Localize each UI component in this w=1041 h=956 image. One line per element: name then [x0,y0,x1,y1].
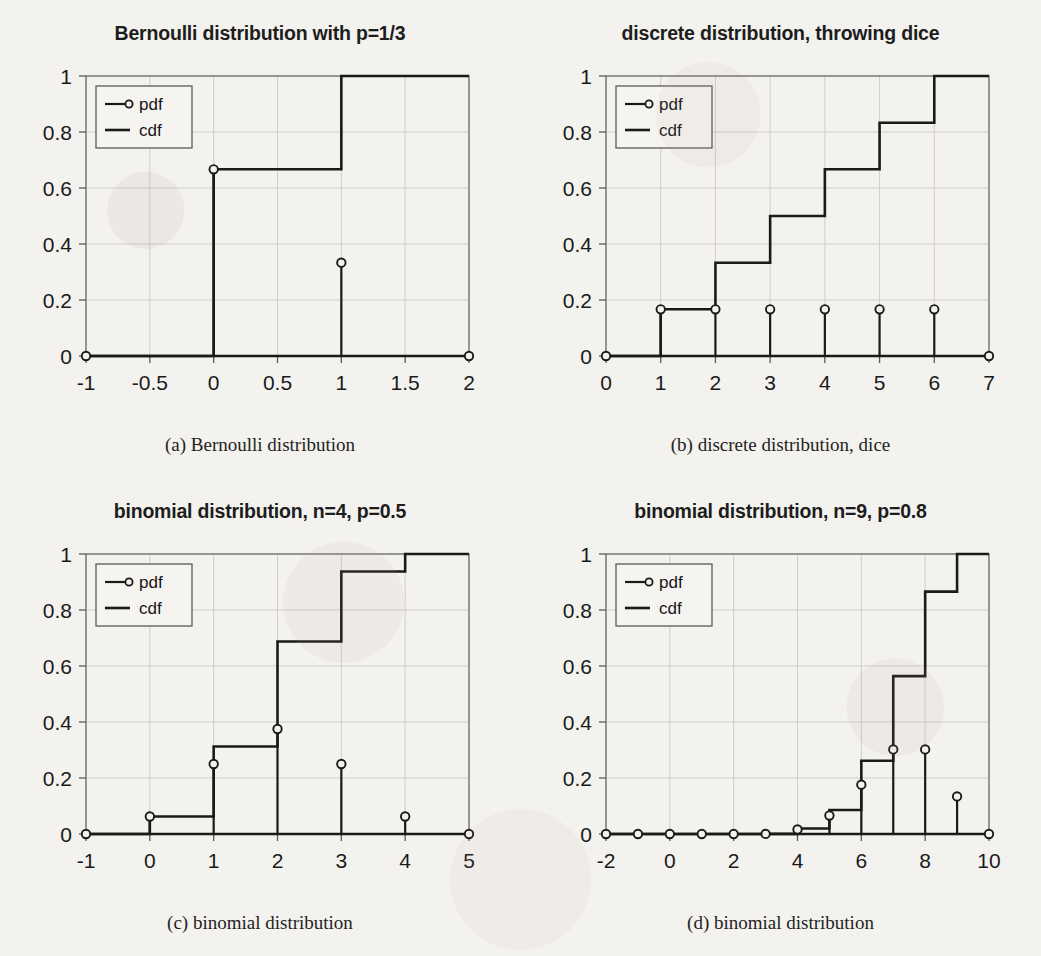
y-tick-label: 0.8 [43,121,72,144]
pdf-marker [146,812,154,820]
y-tick-label: 0 [580,823,592,846]
legend: pdfcdf [616,564,712,626]
legend-pdf-label: pdf [139,95,163,114]
y-tick-label: 0 [580,345,592,368]
panel-d: binomial distribution, n=9, p=0.8 00.20.… [520,478,1041,956]
y-tick-label: 0.4 [43,711,73,734]
pdf-marker [953,792,961,800]
x-tick-label: 6 [928,371,940,394]
panel-a: Bernoulli distribution with p=1/3 00.20.… [0,0,520,478]
x-tick-label: 4 [399,849,411,872]
figure-c: binomial distribution, n=4, p=0.5 00.20.… [0,478,520,956]
pdf-marker [401,812,409,820]
panel-b: discrete distribution, throwing dice 00.… [520,0,1041,478]
y-tick-label: 0 [60,345,72,368]
pdf-marker [985,352,993,360]
x-tick-label: -0.5 [132,371,168,394]
pdf-marker [889,745,897,753]
pdf-marker [825,811,833,819]
pdf-marker [209,760,217,768]
x-tick-label: 1 [335,371,347,394]
plot-area-d[interactable]: 00.20.40.60.81-20246810pdfcdf [520,478,1041,956]
legend-pdf-marker [125,578,132,585]
figure-b: discrete distribution, throwing dice 00.… [520,0,1041,478]
pdf-marker [82,352,90,360]
figure-d: binomial distribution, n=9, p=0.8 00.20.… [520,478,1041,956]
x-tick-label: 4 [792,849,804,872]
pdf-marker [793,825,801,833]
x-tick-label: 0.5 [263,371,292,394]
x-tick-label: -1 [77,371,96,394]
x-tick-label: 0 [600,371,612,394]
pdf-marker [657,305,665,313]
pdf-marker [465,352,473,360]
pdf-marker [985,830,993,838]
y-tick-label: 1 [580,543,592,566]
plot-area-a[interactable]: 00.20.40.60.81-1-0.500.511.52pdfcdf [0,0,520,478]
legend-pdf-marker [645,578,652,585]
pdf-marker [273,725,281,733]
plot-area-b[interactable]: 00.20.40.60.8101234567pdfcdf [520,0,1041,478]
x-tick-label: 1 [655,371,667,394]
x-tick-label: -2 [597,849,616,872]
pdf-marker [602,830,610,838]
plot-group-a: 00.20.40.60.81-1-0.500.511.52pdfcdf [43,65,475,394]
figure-grid: Bernoulli distribution with p=1/3 00.20.… [0,0,1041,956]
pdf-marker [666,830,674,838]
pdf-marker [921,745,929,753]
plot-group-c: 00.20.40.60.81-1012345pdfcdf [43,543,475,872]
legend-cdf-label: cdf [139,599,162,618]
x-tick-label: 1.5 [391,371,420,394]
y-tick-label: 1 [580,65,592,88]
legend: pdfcdf [616,86,712,148]
y-tick-label: 0.8 [43,599,72,622]
pdf-marker [761,830,769,838]
plot-group-d: 00.20.40.60.81-20246810pdfcdf [563,543,1001,872]
x-tick-label: 7 [983,371,995,394]
y-tick-label: 0.8 [563,599,592,622]
pdf-marker [465,830,473,838]
y-tick-label: 0.6 [43,177,72,200]
x-tick-label: 3 [335,849,347,872]
x-tick-label: 2 [272,849,284,872]
caption-d: (d) binomial distribution [520,912,1041,934]
x-tick-label: 2 [728,849,740,872]
caption-b: (b) discrete distribution, dice [520,434,1041,456]
x-tick-label: 10 [977,849,1000,872]
legend-pdf-label: pdf [659,573,683,592]
pdf-marker [209,165,217,173]
y-tick-label: 0.4 [563,711,593,734]
figure-a: Bernoulli distribution with p=1/3 00.20.… [0,0,520,478]
y-tick-label: 0.6 [563,177,592,200]
y-tick-label: 0.8 [563,121,592,144]
x-tick-label: 0 [664,849,676,872]
pdf-marker [930,305,938,313]
x-tick-label: 0 [208,371,220,394]
legend-cdf-label: cdf [659,121,682,140]
pdf-marker [337,258,345,266]
pdf-marker [711,305,719,313]
x-tick-label: 6 [855,849,867,872]
y-tick-label: 0.2 [43,289,72,312]
pdf-marker [602,352,610,360]
y-tick-label: 0.6 [43,655,72,678]
x-tick-label: 3 [764,371,776,394]
x-tick-label: 5 [463,849,475,872]
legend: pdfcdf [96,564,192,626]
legend-pdf-label: pdf [139,573,163,592]
pdf-marker [821,305,829,313]
x-tick-label: 0 [144,849,156,872]
caption-a: (a) Bernoulli distribution [0,434,520,456]
y-tick-label: 0.4 [43,233,73,256]
plot-group-b: 00.20.40.60.8101234567pdfcdf [563,65,995,394]
pdf-marker [634,830,642,838]
plot-area-c[interactable]: 00.20.40.60.81-1012345pdfcdf [0,478,520,956]
y-tick-label: 1 [60,65,72,88]
legend-cdf-label: cdf [139,121,162,140]
x-tick-label: 5 [874,371,886,394]
panel-c: binomial distribution, n=4, p=0.5 00.20.… [0,478,520,956]
pdf-marker [729,830,737,838]
y-tick-label: 0.4 [563,233,593,256]
pdf-marker [875,305,883,313]
pdf-marker [857,780,865,788]
